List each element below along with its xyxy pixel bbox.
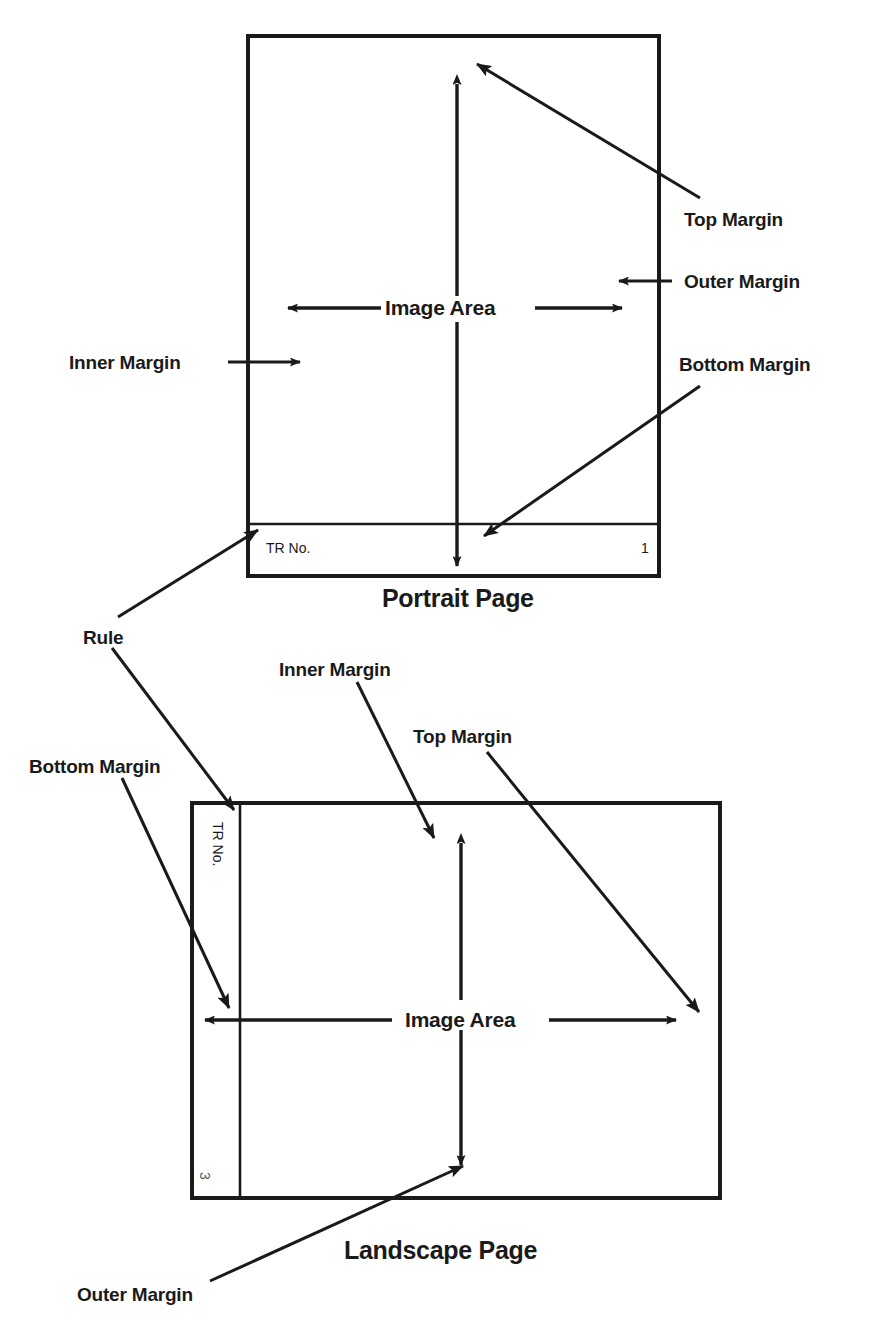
landscape-top-margin-label: Top Margin (413, 727, 512, 746)
landscape-rule-leader (112, 648, 234, 810)
portrait-page-number: 1 (641, 541, 649, 555)
landscape-rule-label: Rule (83, 628, 123, 647)
portrait-image-area-label: Image Area (385, 297, 495, 318)
landscape-page-number: 3 (198, 1172, 212, 1180)
landscape-footer-tr-no: TR No. (211, 822, 225, 866)
landscape-bottom-margin-label: Bottom Margin (29, 757, 160, 776)
landscape-page-caption: Landscape Page (344, 1238, 537, 1263)
portrait-inner-margin-label: Inner Margin (69, 353, 181, 372)
landscape-outer-margin-label: Outer Margin (77, 1285, 193, 1304)
landscape-image-area-label: Image Area (405, 1009, 515, 1030)
diagram-vector-layer (0, 0, 876, 1330)
portrait-bottom-margin-label: Bottom Margin (679, 355, 810, 374)
rule-leader (118, 530, 258, 617)
portrait-page-caption: Portrait Page (382, 586, 534, 611)
portrait-top-margin-label: Top Margin (684, 210, 783, 229)
portrait-footer-tr-no: TR No. (266, 541, 310, 555)
page-layout-diagram: Image Area TR No. 1 Top Margin Outer Mar… (0, 0, 876, 1330)
landscape-inner-margin-label: Inner Margin (279, 660, 391, 679)
portrait-outer-margin-label: Outer Margin (684, 272, 800, 291)
landscape-page-box (192, 803, 720, 1198)
